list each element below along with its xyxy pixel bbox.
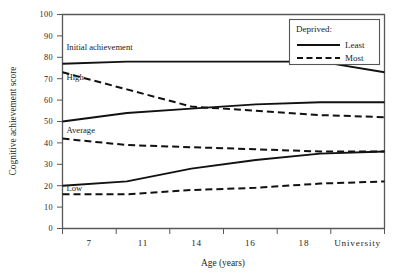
series-annotation: Average [67,125,96,135]
y-tick-label: 50 [44,117,53,126]
legend-title: Deprived: [296,24,332,34]
legend-label-most: Most [345,53,364,63]
y-tick-label: 0 [49,224,54,233]
y-tick-label: 100 [40,10,53,19]
series-line [63,72,385,117]
series-annotation: High [67,72,85,82]
y-tick-label: 70 [44,75,53,84]
y-tick-label: 40 [44,139,53,148]
chart-canvas: 0 10 20 30 40 50 60 70 80 90 100 Cogniti… [0,0,405,278]
y-axis-title: Cognitive achievement score [8,67,18,176]
y-tick-label: 30 [44,160,53,169]
y-tick-label: 20 [44,182,53,191]
x-tick-label: 7 [87,238,92,248]
x-axis-title: Age (years) [201,258,245,269]
y-tick-group [57,15,63,229]
y-axis: 0 10 20 30 40 50 60 70 80 90 100 [40,10,63,233]
series-layer [63,62,385,195]
legend: Deprived: Least Most [290,20,380,65]
y-tick-label: 80 [44,53,53,62]
y-tick-label: 90 [44,32,53,41]
cognitive-achievement-line-chart: 0 10 20 30 40 50 60 70 80 90 100 Cogniti… [0,0,405,278]
series-line [63,102,385,121]
x-tick-label: University [334,238,381,248]
series-line [63,151,385,185]
x-tick-label: 18 [299,238,310,248]
series-annotation: Low [67,183,84,193]
series-line [63,139,385,152]
y-tick-label: 10 [44,203,53,212]
x-axis: 7 11 14 16 18 University [63,229,385,249]
x-tick-label: 16 [245,238,256,248]
series-annotation: Initial achievement [67,42,134,52]
legend-label-least: Least [345,40,365,50]
x-tick-label: 14 [191,238,202,248]
y-tick-label: 60 [44,96,53,105]
x-tick-label: 11 [138,238,148,248]
